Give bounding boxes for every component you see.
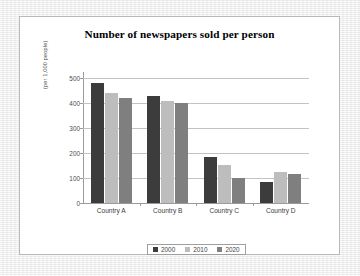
chart-plot-wrapper: (per 1,000 people) 0100200300400500 Coun… [20,17,341,256]
legend-item-2020[interactable]: 2020 [217,247,239,253]
y-tick-mark [80,128,83,129]
x-tick-mark [196,203,197,206]
legend-swatch-icon [153,247,158,252]
bar-2010-country-b [161,101,174,204]
bar-2020-country-b [175,103,188,203]
y-tick-label: 400 [50,100,80,107]
legend-label: 2000 [161,247,175,253]
y-tick-mark [80,153,83,154]
legend-label: 2010 [193,247,207,253]
x-tick-mark [253,203,254,206]
legend-swatch-icon [185,247,190,252]
bar-2020-country-d [288,174,301,203]
y-tick-mark [80,203,83,204]
y-tick-mark [80,178,83,179]
x-tick-label: Country A [97,207,126,214]
legend-swatch-icon [217,247,222,252]
bar-2010-country-d [274,172,287,203]
y-axis-title: (per 1,000 people) [42,9,48,89]
y-tick-label: 0 [50,200,80,207]
x-tick-label: Country B [153,207,182,214]
bar-group [83,78,140,203]
bar-2020-country-c [232,178,245,204]
x-tick-label: Country C [209,207,239,214]
legend-item-2010[interactable]: 2010 [185,247,207,253]
x-tick-label: Country D [266,207,296,214]
slide-panel: Number of newspapers sold per person (pe… [19,16,340,255]
y-axis-tick-labels: 0100200300400500 [48,78,80,203]
bar-2000-country-a [91,83,104,203]
legend-item-2000[interactable]: 2000 [153,247,175,253]
y-tick-label: 500 [50,75,80,82]
bar-group [140,78,197,203]
y-tick-label: 200 [50,150,80,157]
bar-2010-country-a [105,93,118,203]
x-axis-tick-labels: Country ACountry BCountry CCountry D [83,207,309,219]
bar-group [196,78,253,203]
y-tick-label: 100 [50,175,80,182]
bar-series-layer [83,78,309,203]
bar-2000-country-b [147,96,160,204]
bar-2000-country-c [204,157,217,203]
x-tick-mark [140,203,141,206]
bar-group [253,78,310,203]
y-tick-mark [80,103,83,104]
y-tick-mark [80,78,83,79]
legend-label: 2020 [225,247,239,253]
chart-legend: 200020102020 [147,244,246,255]
bar-2010-country-c [218,165,231,203]
bar-2000-country-d [260,182,273,203]
bar-2020-country-a [119,98,132,203]
y-tick-label: 300 [50,125,80,132]
